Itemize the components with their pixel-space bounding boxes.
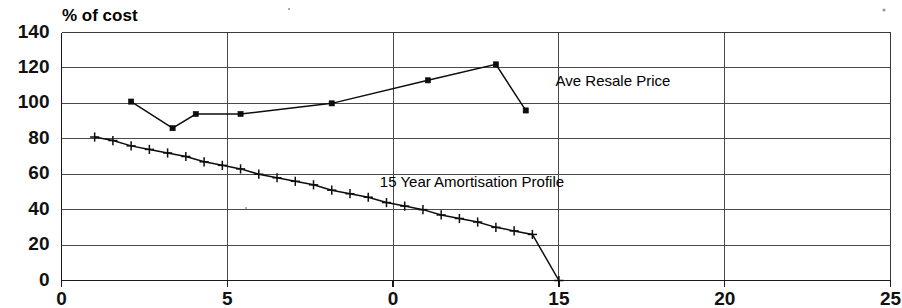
chart-container: 020406080100120140 050152025 Ave Resale … bbox=[0, 0, 902, 308]
x-tick-label: 20 bbox=[714, 288, 735, 308]
data-point-marker bbox=[129, 99, 134, 104]
x-tick-label: 0 bbox=[56, 288, 67, 308]
data-point-marker bbox=[523, 108, 528, 113]
scan-speck bbox=[245, 207, 247, 209]
data-point-marker bbox=[425, 78, 430, 83]
x-tick-label: 5 bbox=[222, 288, 233, 308]
y-tick-label: 40 bbox=[28, 198, 49, 219]
data-point-marker bbox=[329, 101, 334, 106]
x-tick-label: 0 bbox=[388, 288, 399, 308]
y-tick-label: 60 bbox=[28, 162, 49, 183]
y-tick-label: 0 bbox=[39, 269, 50, 290]
data-point-marker bbox=[170, 126, 175, 131]
series-annotation-label: Ave Resale Price bbox=[556, 72, 671, 89]
y-tick-label: 140 bbox=[18, 21, 50, 42]
data-point-marker bbox=[193, 111, 198, 116]
scan-speck bbox=[882, 8, 885, 11]
scan-speck bbox=[288, 8, 290, 10]
series-annotation-label: 15 Year Amortisation Profile bbox=[380, 173, 564, 190]
data-point-marker bbox=[238, 111, 243, 116]
x-tick-label: 25 bbox=[880, 288, 902, 308]
x-tick-label: 15 bbox=[548, 288, 570, 308]
y-tick-label: 120 bbox=[18, 56, 50, 77]
data-point-marker bbox=[493, 62, 498, 67]
chart-background bbox=[0, 0, 902, 308]
y-tick-label: 20 bbox=[28, 233, 49, 254]
y-tick-label: 100 bbox=[18, 91, 50, 112]
chart-canvas: 020406080100120140 050152025 Ave Resale … bbox=[0, 0, 902, 308]
y-tick-label: 80 bbox=[28, 127, 49, 148]
chart-title: % of cost bbox=[62, 6, 138, 25]
